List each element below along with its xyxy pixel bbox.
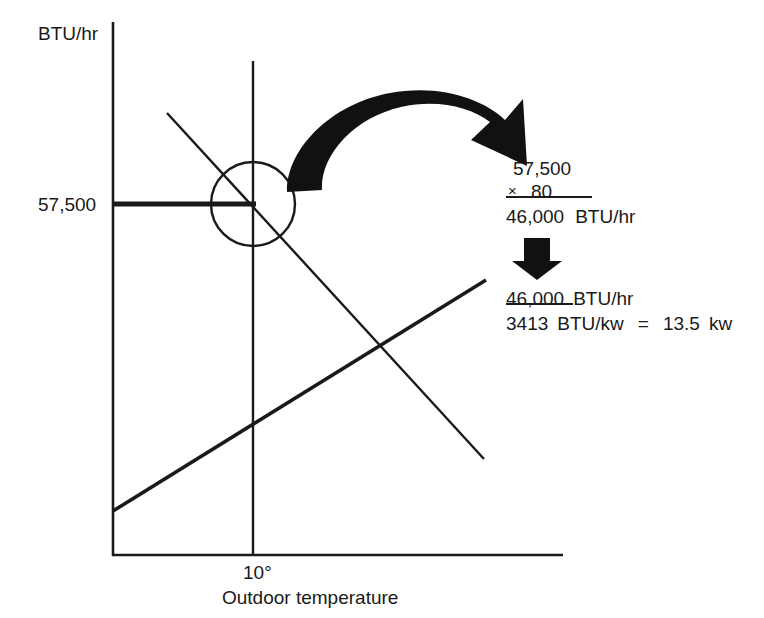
y-axis-label: BTU/hr: [38, 24, 98, 43]
calc-division-denominator: 3413: [506, 313, 548, 335]
y-tick-label-57500: 57,500: [38, 195, 96, 214]
x-axis-label: Outdoor temperature: [222, 588, 398, 607]
chart-figure: BTU/hr 57,500 10° Outdoor temperature 57…: [0, 0, 764, 618]
calc-division-result-units: kw: [709, 313, 732, 335]
calc-division-numerator: 46,000: [506, 288, 564, 310]
calc-multiplication-result-row: 46,000 BTU/hr: [506, 206, 635, 228]
calc-multiplication-operand-1: 57,500: [513, 158, 571, 180]
down-arrow-icon: [512, 238, 562, 280]
calc-division-result: 13.5: [663, 313, 700, 335]
calc-division-denominator-row: 3413 BTU/kw = 13.5 kw: [506, 313, 732, 335]
heat-pump-capacity-line: [113, 280, 486, 511]
calc-multiplication-result: 46,000: [506, 206, 564, 228]
calc-operand-2-value: .80: [526, 181, 552, 203]
calc-division-numerator-row: 46,000 BTU/hr: [506, 288, 633, 310]
equals-icon: =: [638, 313, 649, 335]
calc-multiplication-operator-row: × .80: [508, 181, 552, 203]
calc-division-denominator-units: BTU/kw: [557, 313, 624, 335]
calc-division-numerator-units: BTU/hr: [573, 288, 633, 310]
calc-multiplication-result-units: BTU/hr: [575, 206, 635, 228]
calc-operand-1-value: 57,500: [513, 158, 571, 180]
curved-arrow-icon: [287, 90, 527, 192]
chart-canvas: [0, 0, 764, 618]
multiply-icon: ×: [508, 182, 517, 199]
x-tick-label-10deg: 10°: [243, 563, 272, 582]
